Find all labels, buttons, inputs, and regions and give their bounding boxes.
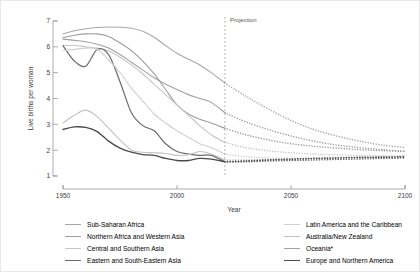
x-tick-label: 2100: [398, 192, 413, 199]
y-tick-label: 3: [46, 121, 50, 128]
y-tick-label: 5: [46, 69, 50, 76]
legend-item[interactable]: Latin America and the Caribbean: [284, 219, 402, 230]
y-tick-label: 4: [46, 95, 50, 102]
series-layer: [63, 27, 405, 162]
legend-swatch-icon: [65, 224, 81, 225]
series-line: [63, 27, 405, 148]
legend-item[interactable]: Sub-Saharan Africa: [65, 219, 184, 230]
legend-item-label: Latin America and the Caribbean: [306, 221, 402, 228]
series-projection-path: [225, 142, 405, 155]
y-tick-label: 7: [46, 17, 50, 24]
legend-column-right: Latin America and the CaribbeanAustralia…: [284, 219, 402, 267]
legend-item-label: Australia/New Zealand: [306, 233, 372, 240]
legend-item[interactable]: Central and Southern Asia: [65, 243, 184, 254]
legend-swatch-icon: [284, 248, 300, 249]
x-tick-label: 2000: [170, 192, 185, 199]
chart-legend: Sub-Saharan AfricaNorthern Africa and We…: [1, 219, 420, 271]
series-projection-path: [225, 83, 405, 148]
legend-item-label: Oceania*: [306, 245, 333, 252]
y-tick-label: 6: [46, 43, 50, 50]
legend-item-label: Sub-Saharan Africa: [87, 221, 144, 228]
x-tick-label: 2050: [284, 192, 299, 199]
series-line: [63, 48, 405, 159]
legend-item-label: Northern Africa and Western Asia: [87, 233, 184, 240]
series-historical-path: [63, 110, 225, 160]
legend-column-left: Sub-Saharan AfricaNorthern Africa and We…: [65, 219, 184, 267]
series-projection-path: [225, 128, 405, 151]
legend-item-label: Eastern and South-Eastern Asia: [87, 257, 181, 264]
legend-item[interactable]: Northern Africa and Western Asia: [65, 231, 184, 242]
x-axis-title: Year: [227, 206, 241, 213]
legend-swatch-icon: [284, 260, 300, 261]
series-line: [63, 127, 405, 162]
projection-label: Projection: [230, 17, 257, 23]
series-line: [63, 45, 405, 155]
legend-swatch-icon: [65, 248, 81, 249]
legend-item[interactable]: Oceania*: [284, 243, 402, 254]
figure-container: 12345671950200020502100Live births per w…: [0, 0, 420, 272]
legend-item[interactable]: Eastern and South-Eastern Asia: [65, 255, 184, 266]
annotation-layer: Projection: [225, 17, 257, 176]
legend-swatch-icon: [284, 224, 300, 225]
series-line: [63, 110, 405, 160]
y-tick-label: 2: [46, 147, 50, 154]
y-tick-label: 1: [46, 172, 50, 179]
x-tick-label: 1950: [56, 192, 71, 199]
series-projection-path: [225, 113, 405, 151]
y-axis-title: Live births per woman: [27, 66, 35, 130]
legend-item[interactable]: Australia/New Zealand: [284, 231, 402, 242]
legend-item-label: Central and Southern Asia: [87, 245, 164, 252]
legend-swatch-icon: [65, 236, 81, 237]
legend-swatch-icon: [65, 260, 81, 261]
legend-swatch-icon: [284, 236, 300, 237]
legend-item-label: Europe and Northern America: [306, 257, 393, 264]
legend-item[interactable]: Europe and Northern America: [284, 255, 402, 266]
